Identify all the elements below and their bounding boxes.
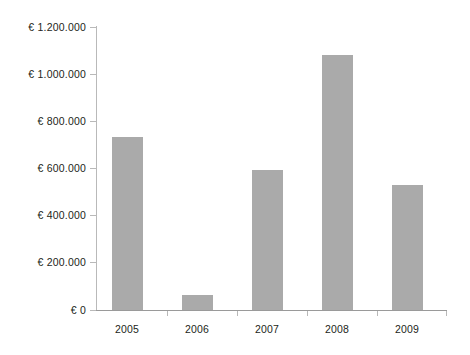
x-axis-tick bbox=[167, 311, 168, 316]
x-axis-label-2009: 2009 bbox=[372, 323, 442, 335]
y-axis-tick bbox=[90, 310, 96, 311]
bars-layer bbox=[0, 0, 470, 310]
bar-2005[interactable] bbox=[112, 137, 143, 310]
x-axis-tick bbox=[446, 311, 447, 316]
bar-2007[interactable] bbox=[252, 170, 283, 310]
x-axis-label-2007: 2007 bbox=[232, 323, 302, 335]
bar-chart: € 1.200.000 € 1.000.000 € 800.000 € 600.… bbox=[0, 0, 470, 355]
bar-column bbox=[392, 0, 423, 310]
bar-column bbox=[252, 0, 283, 310]
x-axis-line bbox=[96, 310, 447, 311]
x-axis-tick bbox=[377, 311, 378, 316]
bar-column bbox=[182, 0, 213, 310]
bar-2008[interactable] bbox=[322, 55, 353, 310]
bar-column bbox=[112, 0, 143, 310]
x-axis-label-2005: 2005 bbox=[92, 323, 162, 335]
x-axis-label-2008: 2008 bbox=[302, 323, 372, 335]
bar-2009[interactable] bbox=[392, 185, 423, 310]
x-axis-tick bbox=[237, 311, 238, 316]
x-axis-label-2006: 2006 bbox=[162, 323, 232, 335]
bar-column bbox=[322, 0, 353, 310]
bar-2006[interactable] bbox=[182, 295, 213, 310]
x-axis-tick bbox=[307, 311, 308, 316]
